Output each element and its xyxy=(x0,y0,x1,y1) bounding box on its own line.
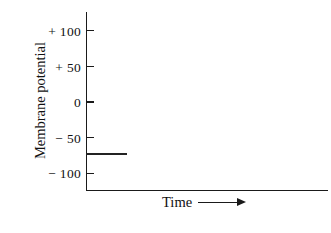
y-tick-mark-100 xyxy=(87,30,94,31)
time-arrow-icon xyxy=(198,198,246,208)
membrane-potential-chart: Membrane potential + 100 + 50 0 − 50 − 1… xyxy=(0,0,331,233)
y-tick-mark-minus-100 xyxy=(87,173,94,174)
y-tick-label-group-2: 0 xyxy=(0,95,81,109)
y-tick-label-minus-100: − 100 xyxy=(48,166,81,182)
y-tick-mark-50 xyxy=(87,66,94,67)
y-tick-label-group-1: + 50 xyxy=(0,60,81,74)
y-tick-label-group-3: − 50 xyxy=(0,131,81,145)
arrow-head xyxy=(237,198,246,206)
y-tick-label-100: + 100 xyxy=(48,24,81,40)
y-tick-label-group-0: + 100 xyxy=(0,24,81,38)
x-axis-title: Time xyxy=(162,194,192,211)
y-tick-mark-minus-50 xyxy=(87,137,94,138)
y-tick-label-50: + 50 xyxy=(55,60,81,76)
y-tick-label-group-4: − 100 xyxy=(0,166,81,180)
resting-potential-trace xyxy=(86,153,127,156)
x-axis-caption: Time xyxy=(162,194,246,211)
x-axis-line xyxy=(86,190,328,191)
y-tick-label-0: 0 xyxy=(74,95,81,111)
arrow-shaft xyxy=(198,202,239,203)
y-tick-label-minus-50: − 50 xyxy=(55,131,81,147)
y-axis-line xyxy=(86,12,87,191)
y-tick-mark-0 xyxy=(87,101,94,102)
